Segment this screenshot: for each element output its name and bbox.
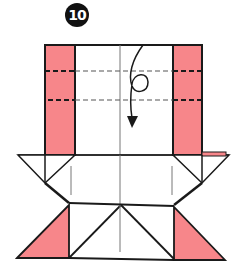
right-colored-triangle <box>174 207 225 260</box>
middle-section <box>18 152 229 205</box>
left-colored-triangle <box>17 205 69 258</box>
bottom-section <box>17 203 225 260</box>
origami-diagram: 10 Origami folding step: valley-fold alo… <box>0 0 239 279</box>
